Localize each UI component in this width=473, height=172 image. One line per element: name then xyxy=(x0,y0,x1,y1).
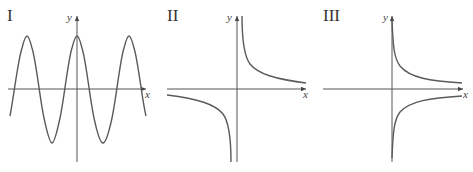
panel-II-curve-left xyxy=(167,95,231,162)
panel-I-label: I xyxy=(7,6,13,26)
panel-I-x-label: x xyxy=(145,88,150,100)
panel-III-graph xyxy=(323,16,463,162)
panel-I-y-label: y xyxy=(67,11,72,23)
panel-III-curve-upper xyxy=(392,20,462,83)
function-graphs-figure: I y x II y x III y x xyxy=(0,0,473,172)
panel-II-x-label: x xyxy=(303,88,308,100)
panel-II-graph xyxy=(167,16,306,162)
panel-II-y-label: y xyxy=(227,11,232,23)
panel-I-graph xyxy=(8,16,146,162)
panel-II-curve-right xyxy=(242,16,306,83)
panel-III-curve-lower xyxy=(392,96,462,158)
graphs-canvas xyxy=(0,0,473,172)
panel-III-label: III xyxy=(323,6,340,26)
panel-II-label: II xyxy=(167,6,178,26)
panel-III-x-label: x xyxy=(463,88,468,100)
panel-III-y-label: y xyxy=(383,11,388,23)
